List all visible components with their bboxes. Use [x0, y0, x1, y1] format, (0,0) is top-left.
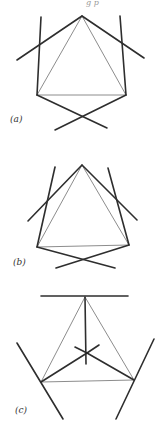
c-spoke-left [41, 353, 87, 382]
b-cross-line-2 [56, 245, 129, 268]
triangle-c-left-edge [41, 297, 85, 382]
figure-a: (a) [10, 16, 144, 130]
c-right-slant-line [116, 339, 154, 419]
a-right-vertical-line [120, 16, 126, 95]
a-cross-line-1 [37, 95, 107, 128]
top-text-fragment: g p [86, 0, 99, 7]
a-cross-line-2 [55, 95, 126, 130]
figure-label-c: (c) [15, 405, 28, 415]
triangle-b-base [37, 245, 129, 247]
figure-label-a: (a) [10, 114, 23, 124]
triangle-b-left-edge [37, 165, 82, 247]
figure-canvas: g p (a) (b) [0, 0, 159, 425]
c-center-point [86, 352, 88, 354]
figure-label-b: (b) [13, 257, 26, 267]
b-top-left-line [28, 165, 82, 221]
figure-b: (b) [13, 165, 137, 268]
c-cross-stub-right [87, 345, 99, 353]
c-spoke-right [87, 353, 134, 380]
a-top-left-line [17, 16, 82, 60]
triangle-c-right-edge [85, 297, 134, 380]
triangle-c-base [41, 380, 134, 382]
triangle-a-right-edge [82, 16, 126, 95]
b-left-side-line [37, 167, 55, 247]
b-right-side-line [108, 168, 129, 245]
a-left-vertical-line [37, 17, 41, 95]
triangle-a-left-edge [37, 16, 82, 95]
b-cross-line-1 [37, 247, 115, 268]
figure-c: (c) [15, 296, 154, 419]
a-top-right-line [82, 16, 144, 58]
